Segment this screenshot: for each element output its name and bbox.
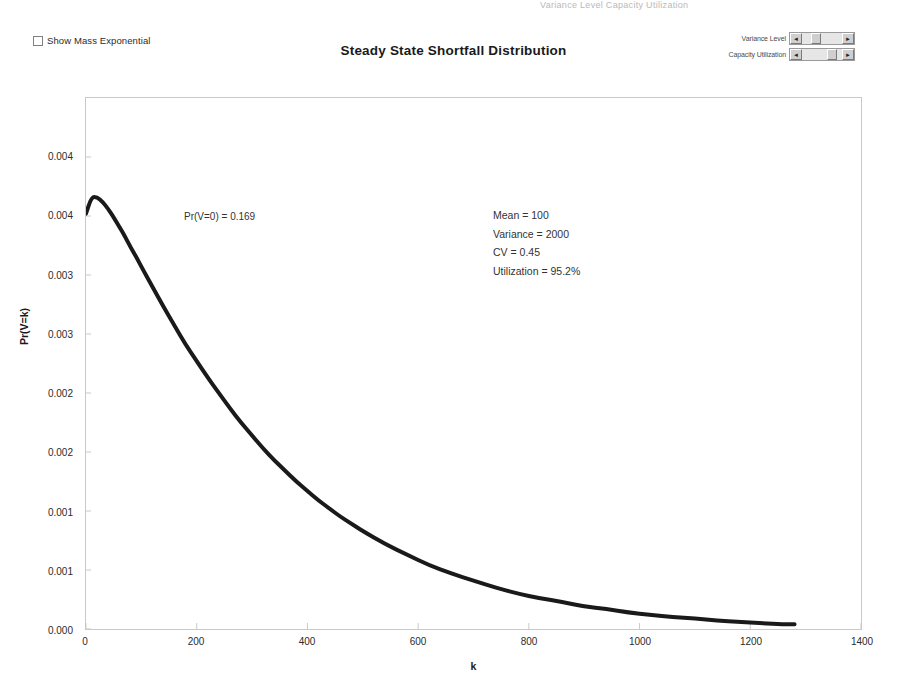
arrow-right-icon[interactable]: ► [842, 33, 854, 44]
arrow-left-icon[interactable]: ◄ [790, 33, 802, 44]
distribution-curve-svg [86, 98, 861, 629]
annotation-stat-line: Utilization = 95.2% [493, 262, 580, 281]
y-tick-label: 0.002 [48, 388, 73, 399]
y-tick-label: 0.001 [48, 565, 73, 576]
annotation-stat-line: CV = 0.45 [493, 243, 580, 262]
x-tick-label: 400 [299, 636, 316, 647]
y-tick-marks [86, 157, 91, 629]
y-axis-tick-labels: 0.0040.0040.0030.0030.0020.0020.0010.001… [0, 97, 79, 630]
annotation-stat-line: Variance = 2000 [493, 225, 580, 244]
annotation-stats-block: Mean = 100Variance = 2000CV = 0.45Utiliz… [493, 206, 580, 280]
x-axis-tick-labels: 0200400600800100012001400 [85, 636, 862, 652]
annotation-prob-zero: Pr(V=0) = 0.169 [184, 211, 255, 222]
x-axis-title: k [85, 660, 862, 672]
x-tick-label: 1000 [629, 636, 651, 647]
y-tick-label: 0.004 [48, 151, 73, 162]
top-cutoff-text: Variance Level Capacity Utilization [540, 0, 907, 12]
y-tick-label: 0.000 [48, 625, 73, 636]
y-tick-label: 0.004 [48, 210, 73, 221]
series-line-pr-v-equals-k [86, 197, 795, 624]
variance-level-thumb[interactable] [811, 33, 821, 44]
x-tick-label: 1400 [851, 636, 873, 647]
capacity-utilization-track[interactable] [802, 49, 842, 60]
variance-level-track[interactable] [802, 33, 842, 44]
variance-level-scrollbar[interactable]: ◄ ► [789, 32, 855, 45]
annotation-stat-line: Mean = 100 [493, 206, 580, 225]
x-tick-label: 200 [188, 636, 205, 647]
slider-row-capacity-utilization[interactable]: Capacity Utilization ◄ ► [724, 48, 855, 61]
plot-area: Pr(V=0) = 0.169 Mean = 100Variance = 200… [85, 97, 862, 630]
capacity-utilization-thumb[interactable] [827, 49, 837, 60]
parameter-sliders: Variance Level ◄ ► Capacity Utilization … [724, 32, 855, 61]
capacity-utilization-label: Capacity Utilization [724, 51, 786, 58]
y-tick-label: 0.002 [48, 447, 73, 458]
variance-level-label: Variance Level [724, 35, 786, 42]
capacity-utilization-scrollbar[interactable]: ◄ ► [789, 48, 855, 61]
x-tick-label: 0 [82, 636, 88, 647]
arrow-right-icon[interactable]: ► [842, 49, 854, 60]
x-tick-label: 600 [410, 636, 427, 647]
y-tick-label: 0.003 [48, 328, 73, 339]
y-tick-label: 0.001 [48, 506, 73, 517]
y-tick-label: 0.003 [48, 269, 73, 280]
arrow-left-icon[interactable]: ◄ [790, 49, 802, 60]
slider-row-variance-level[interactable]: Variance Level ◄ ► [724, 32, 855, 45]
x-tick-label: 1200 [740, 636, 762, 647]
x-tick-label: 800 [521, 636, 538, 647]
